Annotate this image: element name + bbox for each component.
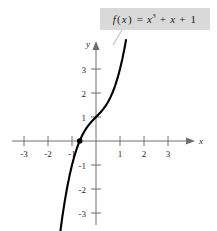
callout-leader-line [113, 30, 122, 45]
function-label-text: f(x) = x3 + x + 1 [113, 13, 198, 25]
xtick-label-2: 2 [142, 149, 147, 159]
ytick-label-neg1: -1 [79, 161, 87, 171]
function-label-box: f(x) = x3 + x + 1 [100, 8, 210, 30]
xtick-label-1: 1 [118, 149, 123, 159]
x-axis-label: x [198, 136, 203, 146]
xtick-label-neg2: -2 [44, 149, 52, 159]
ytick-label-3: 3 [82, 65, 87, 75]
ytick-label-neg2: -2 [79, 185, 87, 195]
xtick-label-neg3: -3 [20, 149, 28, 159]
ytick-label-neg3: -3 [79, 209, 87, 219]
ytick-label-1: 1 [82, 113, 87, 123]
zero-point-marker [77, 138, 83, 144]
xtick-label-3: 3 [166, 149, 171, 159]
ytick-label-2: 2 [82, 89, 87, 99]
y-axis-label: y [85, 39, 90, 49]
function-graph-figure: -3 -2 -1 1 2 3 3 2 1 -1 -2 -3 x y f(x) =… [0, 0, 217, 231]
cartesian-plot: -3 -2 -1 1 2 3 3 2 1 -1 -2 -3 x y [0, 0, 217, 231]
